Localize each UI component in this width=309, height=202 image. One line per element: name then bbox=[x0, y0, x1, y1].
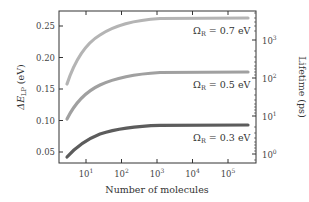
x-axis-title: Number of molecules bbox=[105, 184, 208, 195]
y-axis-left bbox=[59, 26, 63, 152]
y-tick-label: 0.15 bbox=[36, 84, 55, 94]
y-axis-right-title: Lifetime (ps) bbox=[297, 56, 308, 117]
x-tick-label: 103 bbox=[150, 167, 165, 179]
chart: 0.25 0.20 0.15 0.10 0.05 ΔELP (eV) 101 1… bbox=[0, 0, 309, 202]
y-right-tick-label: 101 bbox=[262, 110, 277, 122]
y-axis-left-title: ΔELP (eV) bbox=[15, 64, 28, 110]
x-tick-label: 104 bbox=[185, 167, 200, 179]
curve-label-0.5: ΩR = 0.5 eV bbox=[193, 79, 251, 92]
x-tick-label: 105 bbox=[221, 167, 236, 179]
y-tick-label: 0.25 bbox=[36, 21, 55, 31]
curve-label-0.3: ΩR = 0.3 eV bbox=[193, 132, 251, 145]
curve-label-0.7: ΩR = 0.7 eV bbox=[193, 25, 251, 38]
y-tick-label: 0.20 bbox=[36, 53, 55, 63]
y-right-tick-label: 103 bbox=[262, 34, 277, 46]
y-right-tick-label: 102 bbox=[262, 72, 277, 84]
y-tick-label: 0.05 bbox=[36, 147, 55, 157]
x-tick-label: 101 bbox=[79, 167, 94, 179]
y-right-tick-label: 100 bbox=[262, 148, 277, 160]
x-tick-label: 102 bbox=[114, 167, 129, 179]
y-tick-label: 0.10 bbox=[36, 116, 55, 126]
